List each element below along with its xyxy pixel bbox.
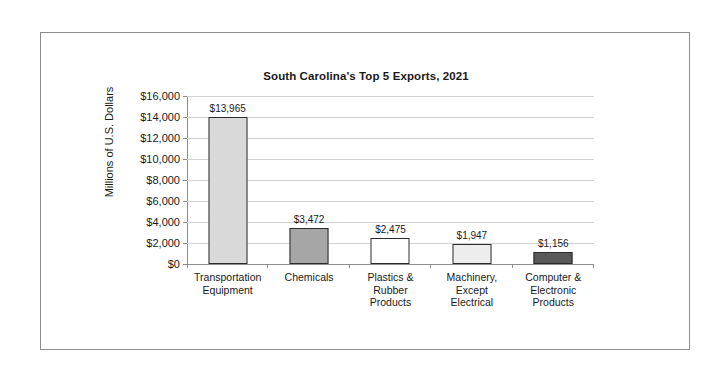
y-axis-title: Millions of U.S. Dollars bbox=[103, 67, 121, 217]
gridline bbox=[187, 264, 594, 265]
bar-value-label: $1,947 bbox=[457, 230, 488, 241]
x-category-label: Computer &ElectronicProducts bbox=[510, 271, 596, 309]
y-tick-label: $12,000 bbox=[140, 132, 180, 144]
chart-title: South Carolina's Top 5 Exports, 2021 bbox=[41, 70, 691, 82]
x-tick-mark bbox=[430, 264, 431, 268]
x-tick-mark bbox=[593, 264, 594, 268]
bar-value-label: $2,475 bbox=[375, 224, 406, 235]
x-tick-mark bbox=[512, 264, 513, 268]
y-tick-label: $8,000 bbox=[146, 174, 180, 186]
y-tick-label: $6,000 bbox=[146, 195, 180, 207]
y-tick-label: $10,000 bbox=[140, 153, 180, 165]
x-category-label: Plastics &RubberProducts bbox=[347, 271, 433, 309]
bar-value-label: $13,965 bbox=[210, 103, 246, 114]
x-tick-mark bbox=[349, 264, 350, 268]
y-tick-label: $16,000 bbox=[140, 90, 180, 102]
x-tick-mark bbox=[187, 264, 188, 268]
bar-value-label: $3,472 bbox=[294, 214, 325, 225]
y-tick-label: $0 bbox=[168, 258, 180, 270]
bar-slot: $1,947Machinery,ExceptElectrical bbox=[431, 96, 512, 264]
chart-page: South Carolina's Top 5 Exports, 2021 Mil… bbox=[0, 0, 724, 374]
bar-slot: $2,475Plastics &RubberProducts bbox=[350, 96, 431, 264]
bar-slot: $13,965TransportationEquipment bbox=[187, 96, 268, 264]
bar-value-label: $1,156 bbox=[538, 238, 569, 249]
x-category-label: TransportationEquipment bbox=[185, 271, 271, 296]
bar[interactable] bbox=[208, 117, 247, 264]
y-tick-label: $4,000 bbox=[146, 216, 180, 228]
y-tick-label: $2,000 bbox=[146, 237, 180, 249]
bar[interactable] bbox=[371, 238, 410, 264]
plot-area: $16,000$14,000$12,000$10,000$8,000$6,000… bbox=[187, 96, 594, 264]
bar[interactable] bbox=[534, 252, 573, 264]
x-category-label: Machinery,ExceptElectrical bbox=[429, 271, 515, 309]
chart-frame: South Carolina's Top 5 Exports, 2021 Mil… bbox=[40, 32, 690, 350]
bar-slot: $1,156Computer &ElectronicProducts bbox=[513, 96, 594, 264]
x-tick-mark bbox=[267, 264, 268, 268]
x-category-label: Chemicals bbox=[266, 271, 352, 284]
bar-slot: $3,472Chemicals bbox=[268, 96, 349, 264]
y-tick-label: $14,000 bbox=[140, 111, 180, 123]
bar[interactable] bbox=[452, 244, 491, 264]
bar[interactable] bbox=[290, 228, 329, 264]
